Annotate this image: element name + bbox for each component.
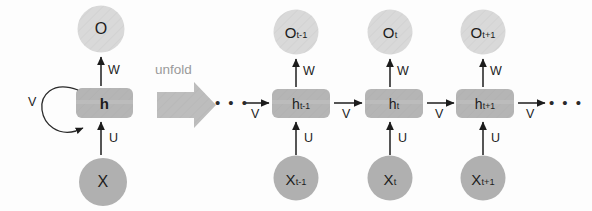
- folded-rnn-group: [42, 6, 133, 207]
- step-node-group-t-1: [272, 10, 330, 201]
- output-weight-label-t: W: [397, 64, 409, 78]
- folded-input-node: [79, 158, 127, 206]
- unfolded-rnn-group: [246, 10, 545, 201]
- folded-output-weight-label: W: [108, 63, 120, 77]
- step-node-group-t-plus-1: [456, 10, 514, 201]
- output-weight-label-t-1: W: [303, 64, 315, 78]
- rnn-unfold-diagram: O h X W U V unfold • • • V Ot-1 ht-1 Xt-…: [0, 0, 592, 211]
- recurrent-weight-label-t-1: V: [342, 107, 350, 121]
- unfold-transition-label: unfold: [155, 62, 192, 77]
- folded-recurrent-weight-label: V: [28, 95, 36, 109]
- input-weight-label-t: U: [398, 131, 407, 145]
- unfold-block-arrow: [157, 82, 216, 128]
- step-node-group-t: [365, 10, 423, 201]
- input-weight-label-t-1: U: [304, 131, 313, 145]
- recurrent-weight-label-t-plus-1: V: [526, 107, 534, 121]
- folded-hidden-node: [76, 88, 133, 118]
- folded-output-node: [78, 6, 125, 53]
- input-weight-label-t-plus-1: U: [491, 131, 500, 145]
- recurrent-weight-label-t: V: [435, 107, 443, 121]
- diagram-vector-layer: [0, 0, 592, 211]
- folded-input-weight-label: U: [109, 131, 118, 145]
- incoming-recurrent-weight-label: V: [251, 107, 259, 121]
- output-weight-label-t-plus-1: W: [490, 64, 502, 78]
